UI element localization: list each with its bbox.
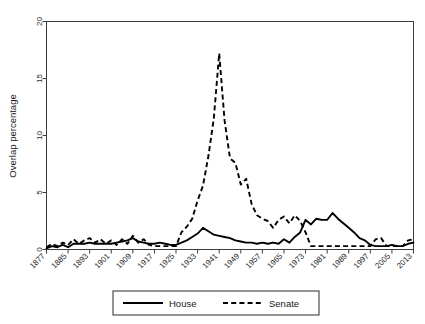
x-tick-label: 1909 — [114, 251, 133, 270]
chart-figure: 05101520 1877188518931901190919171925193… — [0, 0, 425, 324]
y-tick-label: 15 — [35, 74, 44, 83]
x-tick-label: 1917 — [136, 251, 155, 270]
x-tick-label: 1893 — [71, 251, 90, 270]
y-tick-label: 20 — [35, 17, 44, 26]
y-tick-label: 0 — [35, 247, 44, 252]
x-tick-label: 1925 — [157, 251, 176, 270]
x-tick-label: 2005 — [373, 251, 392, 270]
x-tick-label: 1973 — [287, 251, 306, 270]
x-tick-label: 1941 — [201, 251, 220, 270]
plot-area-border — [47, 22, 414, 250]
legend-label-senate: Senate — [269, 298, 299, 309]
x-axis: 1877188518931901190919171925193319411949… — [28, 250, 414, 271]
x-tick-label: 1957 — [244, 251, 263, 270]
y-axis-title: Overlap percentage — [7, 94, 18, 177]
x-tick-label: 1885 — [50, 251, 69, 270]
x-tick-label: 1981 — [309, 251, 328, 270]
x-tick-label: 1997 — [352, 251, 371, 270]
chart-legend: HouseSenate — [113, 291, 319, 315]
plot-frame — [47, 22, 414, 250]
x-tick-label: 1949 — [222, 251, 241, 270]
x-tick-label: 1989 — [330, 251, 349, 270]
overlap-percentage-line-chart: 05101520 1877188518931901190919171925193… — [0, 0, 425, 324]
x-tick-label: 1877 — [28, 251, 47, 270]
y-tick-label: 5 — [35, 190, 44, 195]
legend-label-house: House — [169, 298, 196, 309]
x-tick-label: 1901 — [93, 251, 112, 270]
x-tick-label: 2013 — [395, 251, 414, 270]
y-tick-label: 10 — [35, 131, 44, 140]
x-tick-label: 1965 — [265, 251, 284, 270]
x-tick-label: 1933 — [179, 251, 198, 270]
y-axis: 05101520 — [35, 17, 47, 252]
